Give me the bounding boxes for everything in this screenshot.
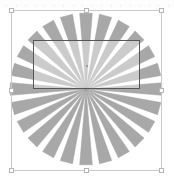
crop-anchor-point[interactable]	[86, 65, 88, 67]
resize-handle-top-right[interactable]	[159, 8, 164, 13]
ruler-tick	[92, 4, 93, 7]
resize-handle-bottom-right[interactable]	[159, 168, 164, 173]
ruler-tick	[130, 4, 131, 7]
ruler-tick	[73, 4, 74, 7]
ruler-tick	[168, 4, 169, 7]
ruler-tick	[149, 4, 150, 7]
ruler-horizontal	[0, 0, 174, 8]
ruler-tick	[158, 4, 159, 7]
resize-handle-middle-left[interactable]	[9, 88, 14, 93]
resize-handle-middle-right[interactable]	[159, 88, 164, 93]
selection-bounding-box[interactable]	[11, 10, 162, 171]
ruler-tick	[6, 4, 7, 7]
ruler-tick	[63, 4, 64, 7]
app-root	[0, 0, 174, 179]
ruler-tick	[111, 4, 112, 7]
ruler-tick	[54, 4, 55, 7]
ruler-tick	[44, 4, 45, 7]
ruler-tick	[25, 4, 26, 7]
resize-handle-bottom-center[interactable]	[84, 168, 89, 173]
canvas-artboard[interactable]	[0, 0, 174, 179]
resize-handle-top-center[interactable]	[84, 8, 89, 13]
resize-handle-bottom-left[interactable]	[9, 168, 14, 173]
ruler-tick	[82, 4, 83, 7]
ruler-tick	[139, 4, 140, 7]
resize-handle-top-left[interactable]	[9, 8, 14, 13]
ruler-tick	[35, 4, 36, 7]
ruler-tick	[101, 4, 102, 7]
ruler-tick	[120, 4, 121, 7]
ruler-tick	[16, 4, 17, 7]
